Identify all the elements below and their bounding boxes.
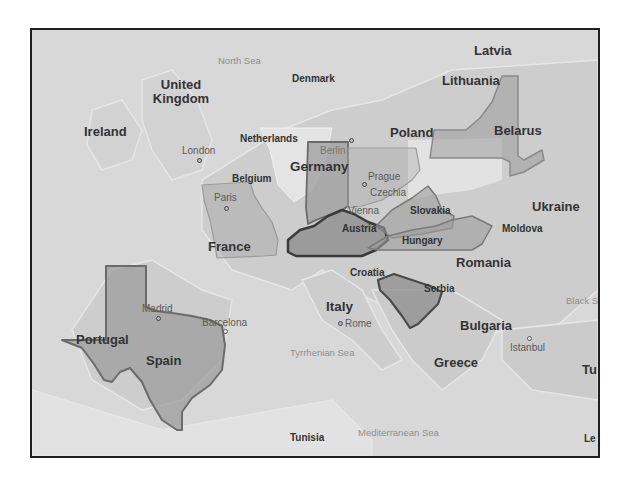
country-label-spain: Spain	[146, 354, 181, 367]
country-label-serbia: Serbia	[424, 284, 455, 294]
country-label-czechia: Czechia	[370, 188, 406, 198]
country-label-bulgaria: Bulgaria	[460, 319, 512, 332]
city-marker-barcelona[interactable]	[223, 329, 228, 334]
country-label-latvia: Latvia	[474, 44, 512, 57]
city-label-madrid: Madrid	[142, 304, 173, 314]
country-label-croatia: Croatia	[350, 268, 384, 278]
country-label-moldova: Moldova	[502, 224, 543, 234]
city-marker-istanbul[interactable]	[527, 336, 532, 341]
city-marker-berlin[interactable]	[349, 138, 354, 143]
city-marker-prague[interactable]	[362, 182, 367, 187]
country-label-slovakia: Slovakia	[410, 206, 451, 216]
sea-label-north-sea: North Sea	[218, 56, 261, 66]
country-label-lithuania: Lithuania	[442, 74, 500, 87]
united-kingdom-text: United Kingdom	[150, 78, 212, 106]
country-label-united-kingdom: United Kingdom	[150, 78, 212, 106]
country-label-belarus: Belarus	[494, 124, 542, 137]
sea-label-black-sea: Black S	[566, 296, 598, 306]
city-label-vienna: Vienna	[348, 206, 379, 216]
country-label-ireland: Ireland	[84, 125, 127, 138]
country-label-greece: Greece	[434, 356, 478, 369]
country-label-tunisia: Tunisia	[290, 433, 324, 443]
city-label-berlin: Berlin	[320, 146, 346, 156]
country-label-romania: Romania	[456, 256, 511, 269]
country-label-belgium: Belgium	[232, 174, 271, 184]
city-marker-madrid[interactable]	[156, 316, 161, 321]
city-marker-paris[interactable]	[224, 206, 229, 211]
country-label-italy: Italy	[326, 300, 353, 314]
city-label-istanbul: Istanbul	[510, 343, 545, 353]
country-label-netherlands: Netherlands	[240, 134, 298, 144]
map-canvas[interactable]	[32, 30, 598, 456]
country-label-turkey-partial: Tu	[582, 363, 597, 376]
country-label-hungary: Hungary	[402, 236, 443, 246]
country-label-austria: Austria	[342, 224, 376, 234]
country-label-ukraine: Ukraine	[532, 200, 580, 213]
country-label-denmark: Denmark	[292, 74, 335, 84]
country-label-france: France	[208, 240, 251, 253]
sea-label-tyrrhenian: Tyrrhenian Sea	[290, 348, 354, 358]
city-label-prague: Prague	[368, 172, 400, 182]
country-label-lebanon-partial: Le	[584, 434, 596, 444]
city-label-barcelona: Barcelona	[202, 318, 247, 328]
city-label-rome: Rome	[345, 319, 372, 329]
map-frame[interactable]: North Sea Latvia Lithuania United Kingdo…	[30, 28, 600, 458]
city-marker-london[interactable]	[197, 158, 202, 163]
city-marker-rome[interactable]	[338, 321, 343, 326]
sea-label-mediterranean: Mediterranean Sea	[358, 428, 439, 438]
country-label-portugal: Portugal	[76, 333, 129, 346]
city-label-paris: Paris	[214, 193, 237, 203]
city-label-london: London	[182, 146, 215, 156]
country-label-germany: Germany	[290, 160, 349, 174]
country-label-poland: Poland	[390, 126, 433, 139]
